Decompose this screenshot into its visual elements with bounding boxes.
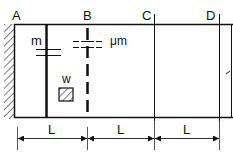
point-label-a: A [12, 9, 21, 22]
dimension-label: L [48, 123, 55, 136]
label-w: w [62, 73, 71, 85]
point-label-b: B [83, 9, 92, 22]
dimension-label: L [183, 123, 190, 136]
fixed-wall [4, 24, 15, 119]
weight-box [59, 88, 73, 101]
label-m: m [31, 34, 42, 47]
point-label-d: D [206, 9, 215, 22]
break-mark [226, 71, 230, 74]
dimension-label: L [117, 123, 124, 136]
point-label-c: C [142, 9, 151, 22]
label-mu-m: μm [110, 35, 127, 47]
